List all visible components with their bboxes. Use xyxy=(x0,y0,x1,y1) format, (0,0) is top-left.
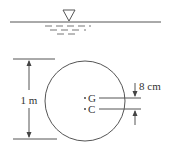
point-g-dot xyxy=(84,97,86,99)
arrow-up-icon xyxy=(27,60,32,66)
point-c-dot xyxy=(84,108,86,110)
arrow-up-icon xyxy=(133,110,138,116)
water-level-triangle-icon xyxy=(63,10,75,21)
water-hatch xyxy=(45,26,91,34)
arrow-down-icon xyxy=(27,132,32,138)
diagram: 1 m G C 8 cm xyxy=(0,0,179,167)
cylinder-section xyxy=(45,61,125,141)
point-c-label: C xyxy=(88,103,95,115)
offset-label: 8 cm xyxy=(139,80,161,92)
arrow-down-icon xyxy=(133,91,138,97)
diameter-label: 1 m xyxy=(21,94,38,106)
